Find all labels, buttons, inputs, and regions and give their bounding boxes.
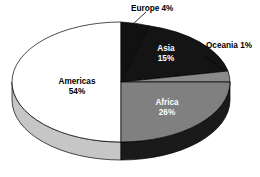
- pie-chart-figure: Europe 4% Oceania 1% Asia 15% Africa 26%…: [0, 0, 260, 177]
- pie-chart-svg: Europe 4% Oceania 1% Asia 15% Africa 26%…: [0, 0, 260, 177]
- pie-label-americas-name: Americas: [59, 77, 96, 86]
- pie-label-asia-name: Asia: [157, 44, 175, 53]
- pie-label-oceania: Oceania 1%: [206, 41, 253, 50]
- pie-label-africa-value: 26%: [159, 108, 176, 117]
- pie-slice-africa: [121, 82, 230, 142]
- pie-top-faces: [12, 22, 230, 142]
- pie-label-americas-value: 54%: [69, 87, 86, 96]
- pie-label-africa-name: Africa: [155, 98, 179, 107]
- pie-label-europe: Europe 4%: [131, 4, 174, 13]
- leader-line-europe: [133, 12, 146, 24]
- pie-label-asia-value: 15%: [158, 54, 175, 63]
